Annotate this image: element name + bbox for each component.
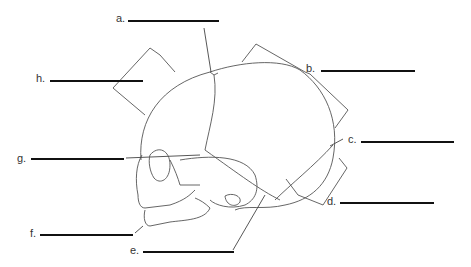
label-b: b. (306, 63, 315, 74)
leader-f (135, 226, 143, 233)
answer-blank-a[interactable] (128, 20, 219, 22)
label-h: h. (36, 73, 45, 84)
ear-region (225, 194, 240, 205)
leader-e (233, 195, 265, 250)
label-a: a. (116, 13, 125, 24)
posterior-fontanelle-bracket (242, 44, 348, 128)
answer-blank-e[interactable] (143, 251, 234, 253)
leader-a (204, 28, 211, 72)
answer-blank-c[interactable] (361, 141, 454, 143)
answer-blank-b[interactable] (321, 70, 415, 72)
answer-blank-f[interactable] (40, 234, 133, 236)
label-c: c. (348, 134, 357, 145)
temporal-bone (180, 157, 257, 207)
label-f: f. (30, 228, 36, 239)
leader-g (126, 155, 200, 158)
cranium-outline (141, 63, 335, 210)
answer-blank-d[interactable] (340, 202, 434, 204)
label-e: e. (130, 245, 139, 256)
answer-blank-g[interactable] (31, 158, 124, 160)
label-d: d. (327, 196, 336, 207)
answer-blank-h[interactable] (50, 80, 143, 82)
face-profile (136, 155, 195, 208)
label-g: g. (17, 153, 26, 164)
coronal-suture (205, 72, 218, 150)
lambdoid-suture (275, 145, 333, 200)
skull-illustration (0, 0, 471, 267)
skull-diagram: a. b. c. d. e. f. g. h. (0, 0, 471, 267)
orbit (149, 150, 170, 181)
leader-c (330, 139, 343, 146)
sphenoid (170, 160, 200, 185)
